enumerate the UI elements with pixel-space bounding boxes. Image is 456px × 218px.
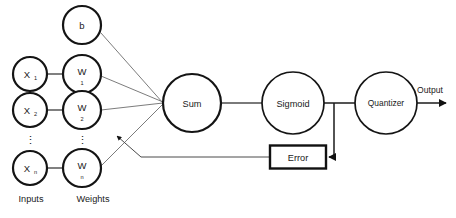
weight-node-w1-subscript: 1 bbox=[80, 80, 83, 86]
error-box-label: Error bbox=[288, 153, 308, 163]
weight-node-w1-label: W bbox=[78, 66, 87, 77]
quantizer-node-label: Quantizer bbox=[368, 98, 405, 108]
output-label: Output bbox=[417, 85, 443, 95]
input-node-xn-label: X bbox=[24, 163, 31, 174]
bias-node-label: b bbox=[79, 20, 84, 31]
sigmoid-node-label: Sigmoid bbox=[276, 99, 309, 109]
weight-node-w2-label: W bbox=[78, 102, 87, 113]
inputs-column-label: Inputs bbox=[18, 194, 43, 204]
weights-column-label: Weights bbox=[76, 194, 109, 204]
edge-bias-sum bbox=[101, 33, 163, 103]
inputs-ellipsis: ⋮ bbox=[25, 134, 36, 146]
weight-node-wn-subscript: n bbox=[80, 174, 83, 180]
weights-ellipsis: ⋮ bbox=[77, 134, 88, 146]
edge-w1-sum bbox=[101, 76, 163, 102]
input-node-x2-label: X bbox=[24, 105, 31, 116]
sum-node-label: Sum bbox=[183, 99, 202, 109]
input-node-x1-label: X bbox=[24, 69, 31, 80]
input-node-x1-subscript: 1 bbox=[34, 75, 37, 81]
diagram-canvas: b X 1 X 2 X n ⋮ W 1 W 2 W n ⋮ Sum Sigmoi… bbox=[0, 0, 456, 218]
edge-w2-sum bbox=[101, 103, 163, 110]
input-node-xn-subscript: n bbox=[34, 169, 37, 175]
input-node-x2-subscript: 2 bbox=[34, 111, 37, 117]
neural-network-diagram: b X 1 X 2 X n ⋮ W 1 W 2 W n ⋮ Sum Sigmoi… bbox=[0, 0, 456, 218]
edge-error-feedback bbox=[117, 136, 269, 157]
weight-node-wn-label: W bbox=[78, 160, 87, 171]
weight-node-w2-subscript: 2 bbox=[80, 116, 83, 122]
edge-output-to-error bbox=[329, 103, 334, 157]
